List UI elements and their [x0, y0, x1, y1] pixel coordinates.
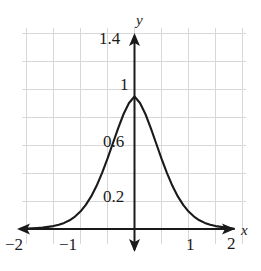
x-tick-label-pos-1: 1	[186, 235, 195, 254]
axis-arrowheads	[17, 33, 235, 252]
y-tick-label-1: 1	[120, 75, 129, 94]
chart-figure: 1.4 1 0.6 0.2 −2 −1 1 2 y x	[0, 0, 261, 271]
y-axis-label: y	[134, 12, 143, 28]
x-tick-label-pos-2: 2	[227, 234, 236, 253]
x-tick-label-neg-2: −2	[5, 235, 23, 254]
y-tick-label-0-6: 0.6	[103, 132, 124, 151]
bell-curve-path	[21, 97, 234, 229]
y-tick-label-1-4: 1.4	[99, 29, 121, 48]
x-tick-label-neg-1: −1	[59, 235, 77, 254]
x-axis-label: x	[240, 222, 248, 238]
y-tick-label-0-2: 0.2	[103, 187, 124, 206]
axis-lines	[20, 36, 234, 250]
bell-curve-plot: 1.4 1 0.6 0.2 −2 −1 1 2 y x	[0, 0, 261, 271]
